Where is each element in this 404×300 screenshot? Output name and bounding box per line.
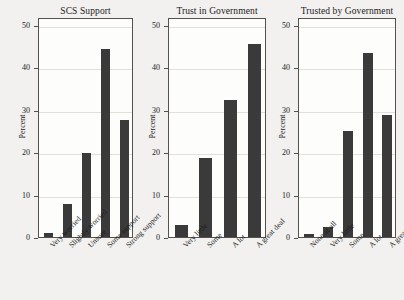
y-tick-mark [294, 153, 298, 154]
y-tick-label: 20 [264, 148, 290, 157]
y-tick-label: 30 [264, 106, 290, 115]
y-tick-label: 40 [264, 63, 290, 72]
chart-panel-3: Trusted by GovernmentPercent01020304050N… [0, 0, 404, 300]
y-tick-label: 0 [264, 233, 290, 242]
y-tick-mark [294, 26, 298, 27]
figure-bar-chart-panels: SCS SupportPercent01020304050Very worrie… [0, 0, 404, 300]
y-tick-mark [294, 196, 298, 197]
bar [363, 53, 373, 237]
gridline [299, 112, 395, 113]
y-tick-mark [294, 68, 298, 69]
y-tick-label: 50 [264, 21, 290, 30]
panel-title: Trusted by Government [264, 6, 404, 16]
bar [304, 234, 314, 237]
y-tick-label: 10 [264, 191, 290, 200]
y-tick-mark [294, 238, 298, 239]
plot-area [298, 18, 396, 238]
bar [382, 115, 392, 237]
y-tick-mark [294, 111, 298, 112]
gridline [299, 69, 395, 70]
gridline [299, 27, 395, 28]
